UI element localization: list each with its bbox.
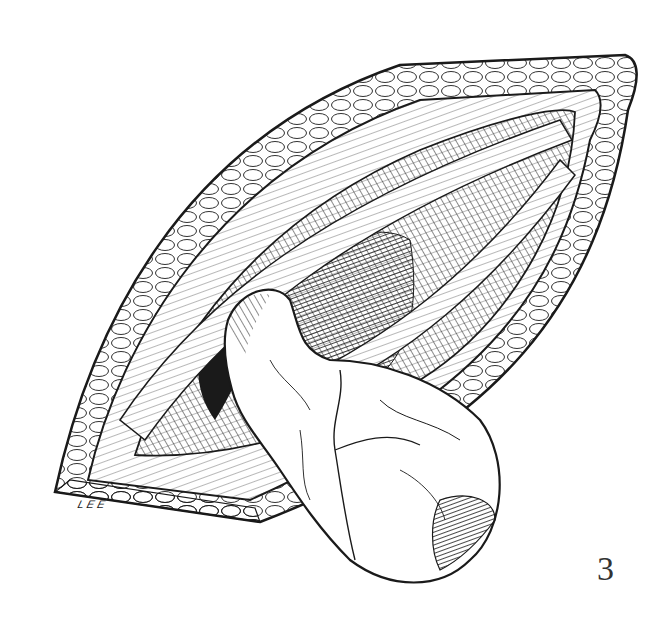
surgical-illustration [0, 0, 666, 632]
artist-signature: LEE [76, 498, 109, 510]
figure-number: 3 [597, 550, 614, 588]
